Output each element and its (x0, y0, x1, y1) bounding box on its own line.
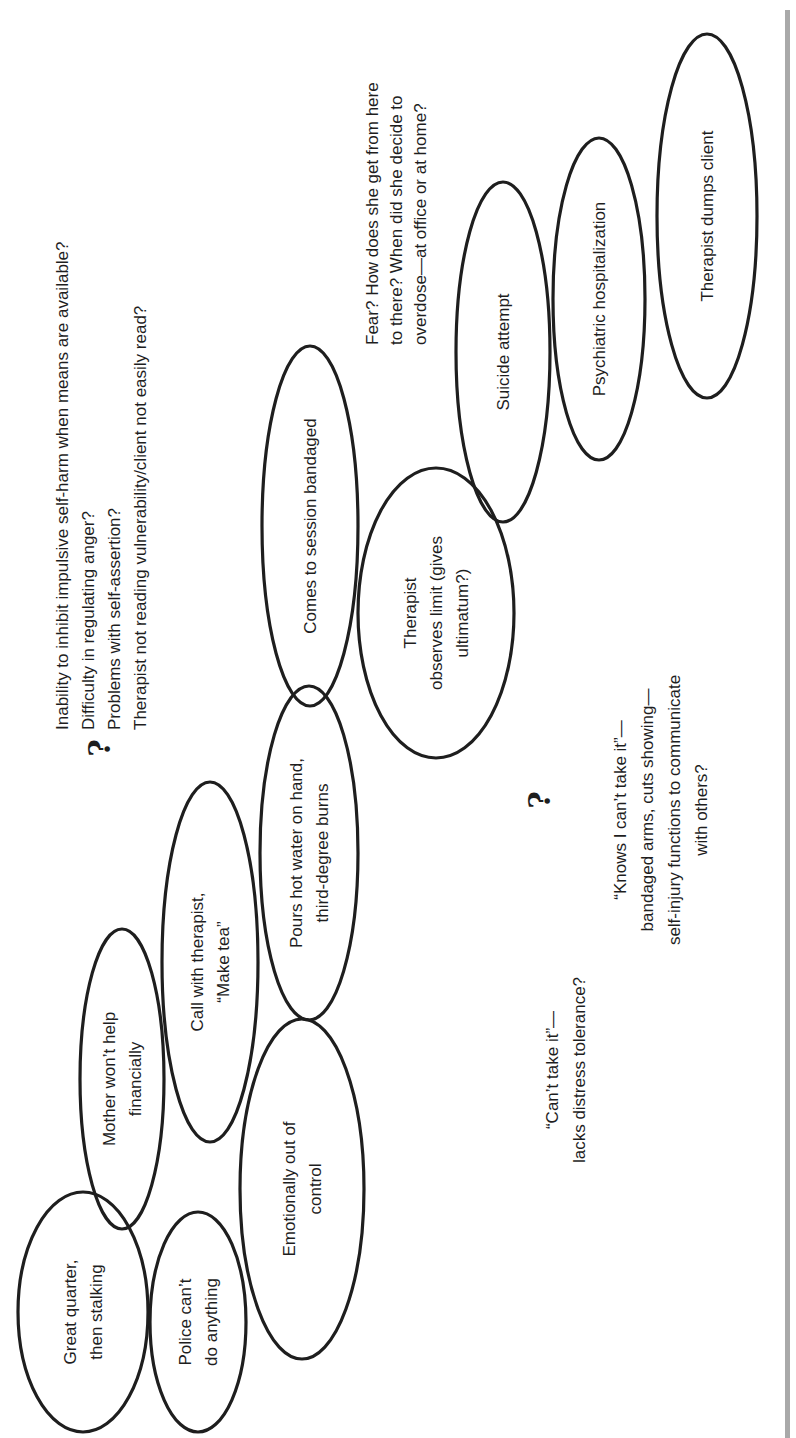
note-cant-take-it-notes: “Can’t take it”—lacks distress tolerance… (543, 977, 589, 1163)
node-label-line: observes limit (gives (427, 536, 446, 690)
node-emotionally: Emotionally out ofcontrol (240, 1019, 364, 1359)
question-mark-icon: ? (522, 791, 557, 809)
note-line: Difficulty in regulating anger? (79, 511, 98, 730)
node-label-line: Suicide attempt (494, 293, 513, 410)
node-label-line: Therapist dumps client (698, 130, 717, 301)
node-comes-bandaged: Comes to session bandaged (262, 346, 358, 706)
note-line: Fear? How does she get from here (363, 82, 382, 345)
note-line: Inability to inhibit impulsive self-harm… (53, 241, 72, 730)
note-line: to there? When did she decide to (387, 96, 406, 346)
note-line: self-injury functions to communicate (665, 675, 684, 945)
node-dumps-client: Therapist dumps client (657, 34, 757, 398)
node-label-line: “Make tea” (214, 921, 233, 1003)
note-line: lacks distress tolerance? (570, 977, 589, 1163)
note-line: Therapist not reading vulnerability/clie… (131, 306, 150, 730)
node-ellipse (162, 782, 258, 1142)
node-label: Therapist dumps client (698, 130, 717, 301)
node-pours-water: Pours hot water on hand,third-degree bur… (260, 686, 358, 1020)
node-label: Comes to session bandaged (301, 418, 320, 633)
page-edge-bar (785, 10, 790, 1438)
node-label-line: Great quarter, (61, 1260, 80, 1365)
node-suicide-attempt: Suicide attempt (456, 182, 550, 522)
note-line: with others? (692, 764, 711, 857)
question-mark-icon: ? (82, 739, 117, 757)
node-label: Suicide attempt (494, 293, 513, 410)
node-label: Psychiatric hospitalization (590, 202, 609, 397)
node-call-therapist: Call with therapist,“Make tea” (162, 782, 258, 1142)
node-label-line: Call with therapist, (188, 893, 207, 1032)
node-mother: Mother won’t helpfinancially (80, 929, 164, 1229)
node-label-line: financially (126, 1041, 145, 1116)
node-label-line: Mother won’t help (100, 1012, 119, 1146)
node-label-line: ultimatum?) (453, 569, 472, 658)
note-line: Problems with self-assertion? (105, 508, 124, 730)
node-label-line: Therapist (401, 577, 420, 648)
node-label-line: do anything (202, 1278, 221, 1366)
node-label-line: Pours hot water on hand, (287, 758, 306, 948)
node-label-line: third-degree burns (313, 784, 332, 923)
case-formulation-diagram: Great quarter,then stalkingPolice can’td… (0, 0, 796, 1438)
node-hospitalization: Psychiatric hospitalization (553, 138, 645, 460)
node-label-line: Emotionally out of (280, 1121, 299, 1256)
node-label-line: then stalking (87, 1264, 106, 1359)
node-label-line: control (306, 1163, 325, 1214)
node-ellipse (240, 1019, 364, 1359)
node-label-line: Comes to session bandaged (301, 418, 320, 633)
node-label-line: Psychiatric hospitalization (590, 202, 609, 397)
note-fear-notes: Fear? How does she get from hereto there… (363, 82, 430, 345)
note-line: overdose—at office or at home? (411, 103, 430, 345)
node-ellipse (260, 686, 358, 1020)
node-ellipse (150, 1212, 246, 1432)
note-line: “Knows I can’t take it”— (611, 720, 630, 900)
note-line: bandaged arms, cuts showing— (638, 689, 657, 932)
node-label-line: Police can’t (176, 1278, 195, 1365)
note-line: “Can’t take it”— (543, 1011, 562, 1129)
node-police: Police can’tdo anything (150, 1212, 246, 1432)
note-vulnerability-notes: Inability to inhibit impulsive self-harm… (53, 241, 150, 730)
node-ellipse (80, 929, 164, 1229)
note-knows-notes: “Knows I can’t take it”—bandaged arms, c… (611, 675, 711, 945)
